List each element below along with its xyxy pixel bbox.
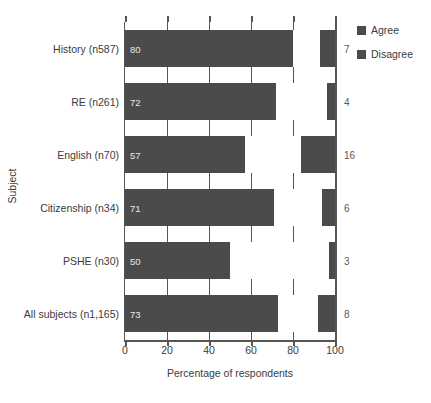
bar-segment-disagree xyxy=(322,189,335,226)
x-tick-mark xyxy=(335,16,337,22)
bar-segment-disagree xyxy=(320,30,335,67)
chart-figure: Subject 80History (n587)772RE (n261)457E… xyxy=(0,0,431,403)
category-label: All subjects (n1,165) xyxy=(24,308,119,320)
plot-area: 80History (n587)772RE (n261)457English (… xyxy=(125,22,335,340)
disagree-value-label: 16 xyxy=(344,149,355,160)
category-label: PSHE (n30) xyxy=(63,255,119,267)
bar-row: 73All subjects (n1,165)8 xyxy=(125,295,335,332)
bar-row: 80History (n587)7 xyxy=(125,30,335,67)
legend-label: Disagree xyxy=(371,48,413,60)
bar-value-label: 71 xyxy=(130,202,141,213)
bar-row: 57English (n70)16 xyxy=(125,136,335,173)
bar-segment-agree xyxy=(125,83,276,120)
gridline xyxy=(209,22,210,340)
bar-value-label: 57 xyxy=(130,149,141,160)
disagree-value-label: 8 xyxy=(344,308,350,319)
bar-segment-agree xyxy=(125,189,274,226)
bar-row: 71Citizenship (n34)6 xyxy=(125,189,335,226)
disagree-value-label: 7 xyxy=(344,43,350,54)
x-axis-title: Percentage of respondents xyxy=(125,367,335,379)
bar-segment-disagree xyxy=(318,295,335,332)
legend-swatch xyxy=(357,50,366,59)
axis-spine-right xyxy=(335,22,337,340)
bar-row: 50PSHE (n30)3 xyxy=(125,242,335,279)
disagree-value-label: 4 xyxy=(344,96,350,107)
legend-swatch xyxy=(357,26,366,35)
x-tick-label: 20 xyxy=(161,344,173,356)
disagree-value-label: 6 xyxy=(344,202,350,213)
x-tick-label: 40 xyxy=(203,344,215,356)
y-axis-title: Subject xyxy=(6,151,18,221)
axis-spine-left xyxy=(124,22,126,340)
gridline xyxy=(293,22,294,340)
legend-item: Disagree xyxy=(357,48,431,60)
x-tick-mark xyxy=(125,16,127,22)
legend-item: Agree xyxy=(357,24,431,36)
category-label: Citizenship (n34) xyxy=(40,202,119,214)
bar-value-label: 80 xyxy=(130,43,141,54)
category-label: History (n587) xyxy=(53,43,119,55)
axis-line-bottom xyxy=(124,340,337,342)
bar-segment-agree xyxy=(125,136,245,173)
bar-row: 72RE (n261)4 xyxy=(125,83,335,120)
bar-value-label: 50 xyxy=(130,255,141,266)
legend-label: Agree xyxy=(371,24,399,36)
x-tick-label: 0 xyxy=(122,344,128,356)
gridline xyxy=(251,22,252,340)
bar-segment-disagree xyxy=(329,242,335,279)
bar-segment-agree xyxy=(125,242,230,279)
bar-segment-agree xyxy=(125,30,293,67)
bar-value-label: 73 xyxy=(130,308,141,319)
chart-legend: AgreeDisagree xyxy=(357,24,431,72)
bar-segment-agree xyxy=(125,295,278,332)
bar-value-label: 72 xyxy=(130,96,141,107)
disagree-value-label: 3 xyxy=(344,255,350,266)
x-tick-label: 100 xyxy=(326,344,344,356)
x-tick-label: 60 xyxy=(245,344,257,356)
bar-segment-disagree xyxy=(301,136,335,173)
x-tick-label: 80 xyxy=(287,344,299,356)
gridline xyxy=(167,22,168,340)
bar-segment-disagree xyxy=(327,83,335,120)
category-label: RE (n261) xyxy=(71,96,119,108)
category-label: English (n70) xyxy=(57,149,119,161)
